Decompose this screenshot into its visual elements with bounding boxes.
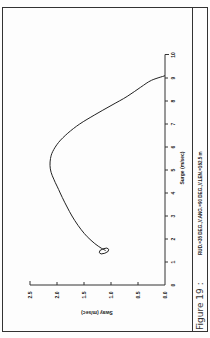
trajectory-line	[50, 76, 165, 251]
figure-label: Figure 19 :	[195, 282, 205, 330]
figure-params: RUD.=35 DEG.,V.ANG.=90 DEG.,V.LEN.=162.5…	[198, 151, 203, 255]
surge-tick-label: 9	[170, 76, 176, 79]
sway-tick-label: 1.0	[108, 291, 114, 298]
surge-tick-label: 8	[170, 99, 176, 102]
sway-tick-label: 1.5	[81, 291, 87, 298]
surge-tick-label: 2	[170, 237, 176, 240]
surge-tick-label: 3	[170, 214, 176, 217]
surge-axis-title: Surge (m/sec)	[179, 151, 185, 184]
sway-tick-label: 0.0	[162, 291, 168, 298]
surge-tick-label: 0	[170, 283, 176, 286]
surge-tick-label: 4	[170, 191, 176, 194]
surge-tick-label: 5	[170, 168, 176, 171]
figure-page: 012345678910 0.00.51.01.52.02.5 Surge (m…	[0, 0, 210, 338]
figure-svg: 012345678910 0.00.51.01.52.02.5 Surge (m…	[0, 0, 210, 338]
sway-tick-label: 2.0	[54, 291, 60, 298]
sway-tick-label: 0.5	[135, 291, 141, 298]
plot-area: 012345678910 0.00.51.01.52.02.5 Surge (m…	[27, 52, 185, 316]
trajectory-loop	[98, 247, 109, 255]
sway-tick-label: 2.5	[27, 291, 33, 298]
figure-frame	[3, 8, 208, 332]
surge-tick-label: 1	[170, 260, 176, 263]
sway-ticks: 0.00.51.01.52.02.5	[27, 282, 168, 298]
surge-tick-label: 6	[170, 145, 176, 148]
surge-tick-label: 7	[170, 122, 176, 125]
surge-tick-label: 10	[170, 52, 176, 58]
surge-ticks: 012345678910	[165, 52, 176, 286]
sway-axis-title: Sway (m/sec)	[81, 310, 113, 316]
